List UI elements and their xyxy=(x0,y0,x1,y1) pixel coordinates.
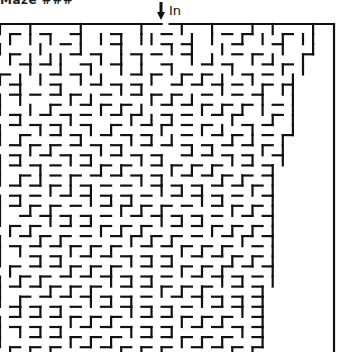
maze-grid xyxy=(0,0,342,352)
